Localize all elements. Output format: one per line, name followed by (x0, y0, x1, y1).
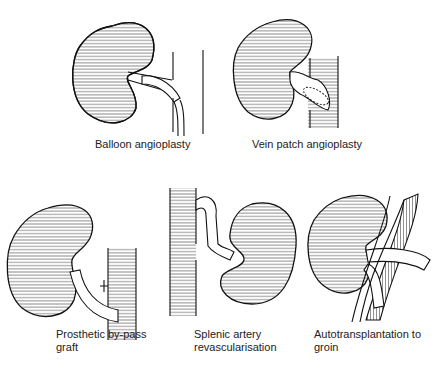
autotransplantation-to-groin-illustration (300, 190, 444, 330)
caption-prosthetic-bypass-graft: Prosthetic by-pass graft (56, 328, 146, 354)
caption-autotransplantation-to-groin: Autotransplantation to groin (314, 328, 421, 354)
panel-vein-patch-angioplasty: Vein patch angioplasty (228, 10, 388, 160)
panel-splenic-artery-revascularisation: Splenic artery revascularisation (160, 186, 300, 366)
prosthetic-bypass-graft-illustration (0, 200, 160, 340)
panel-prosthetic-bypass-graft: Prosthetic by-pass graft (0, 200, 160, 366)
vein-patch-angioplasty-illustration (228, 10, 388, 150)
caption-splenic-artery-revascularisation: Splenic artery revascularisation (194, 328, 277, 354)
balloon-angioplasty-illustration (60, 10, 220, 150)
panel-autotransplantation-to-groin: Autotransplantation to groin (300, 190, 444, 366)
splenic-artery-revascularisation-illustration (160, 186, 300, 326)
caption-balloon-angioplasty: Balloon angioplasty (95, 138, 190, 151)
caption-vein-patch-angioplasty: Vein patch angioplasty (252, 138, 362, 151)
panel-balloon-angioplasty: Balloon angioplasty (60, 10, 220, 160)
